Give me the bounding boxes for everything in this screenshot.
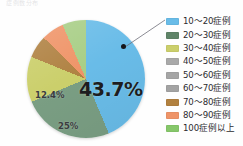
legend-item[interactable]: 40〜50症例	[166, 55, 243, 68]
legend-label: 80〜90症例	[183, 111, 231, 120]
legend-item[interactable]: 50〜60症例	[166, 69, 243, 82]
legend-swatch-icon	[166, 45, 179, 52]
legend-swatch-icon	[166, 72, 179, 79]
callout-dot-marker	[121, 44, 126, 49]
legend-item[interactable]: 80〜90症例	[166, 109, 243, 122]
pie-label-primary: 43.7%	[79, 78, 142, 100]
legend-label: 30〜40症例	[183, 44, 231, 53]
legend-label: 10〜20症例	[183, 17, 231, 26]
legend: 10〜20症例20〜30症例30〜40症例40〜50症例50〜60症例60〜70…	[166, 15, 243, 136]
legend-item[interactable]: 100症例以上	[166, 122, 243, 135]
legend-swatch-icon	[166, 112, 179, 119]
legend-swatch-icon	[166, 58, 179, 65]
legend-swatch-icon	[166, 32, 179, 39]
legend-label: 50〜60症例	[183, 71, 231, 80]
pie-label-tertiary: 12.4%	[35, 90, 65, 100]
legend-item[interactable]: 30〜40症例	[166, 42, 243, 55]
cropped-title: 症例数分布	[6, 0, 66, 6]
legend-label: 20〜30症例	[183, 31, 231, 40]
chart-canvas: 症例数分布 43.7% 25% 12.4% 10〜20症例20〜30症例30〜4…	[0, 0, 243, 146]
legend-item[interactable]: 20〜30症例	[166, 28, 243, 41]
legend-item[interactable]: 70〜80症例	[166, 95, 243, 108]
legend-label: 70〜80症例	[183, 98, 231, 107]
legend-label: 40〜50症例	[183, 57, 231, 66]
legend-item[interactable]: 10〜20症例	[166, 15, 243, 28]
legend-label: 60〜70症例	[183, 84, 231, 93]
legend-swatch-icon	[166, 85, 179, 92]
legend-swatch-icon	[166, 125, 179, 132]
legend-swatch-icon	[166, 99, 179, 106]
legend-label: 100症例以上	[183, 124, 235, 133]
legend-swatch-icon	[166, 18, 179, 25]
pie-chart: 43.7% 25% 12.4%	[22, 18, 152, 140]
legend-item[interactable]: 60〜70症例	[166, 82, 243, 95]
pie-label-secondary: 25%	[58, 121, 78, 131]
